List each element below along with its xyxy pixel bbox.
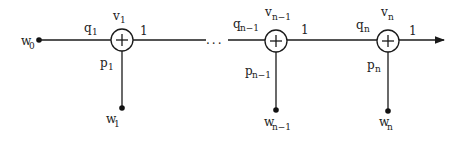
adder-node-1: v 1 q 1 p 1 w 1 1 [84,9,148,129]
input-dot-w-n [385,108,391,114]
v-label: v [112,9,120,23]
out-gain: 1 [409,24,417,38]
p-label: p [100,56,108,70]
adder-node-n-1: v n−1 q n−1 p n−1 w n−1 1 [233,5,309,132]
w-subscript: n−1 [272,122,291,132]
w-subscript: 1 [114,119,120,129]
v-subscript: 1 [120,15,126,25]
signal-flow-diagram: w 0 ... v 1 q 1 p 1 w 1 1 v n−1 q n−1 p … [0,0,470,142]
q-subscript: n [364,24,370,34]
source-subscript: 0 [29,41,35,51]
p-subscript: n [375,64,381,74]
out-gain: 1 [140,24,148,38]
v-subscript: n [388,12,394,22]
w-subscript: n [387,122,393,132]
v-subscript: n−1 [272,12,291,22]
input-dot-w-n-1 [273,107,279,113]
q-subscript: n−1 [240,23,259,33]
v-label: v [380,5,388,19]
v-label: v [264,5,272,19]
q-label: q [84,21,92,35]
q-subscript: 1 [92,27,98,37]
p-subscript: n−1 [252,70,271,80]
source-w0: w 0 [21,34,42,51]
ellipsis: ... [206,33,223,47]
p-subscript: 1 [108,62,114,72]
input-dot-w1 [119,105,125,111]
adder-node-n: v n q n p n w n 1 [356,5,417,132]
p-label: p [367,58,375,72]
out-gain: 1 [301,23,309,37]
q-label: q [356,18,364,32]
